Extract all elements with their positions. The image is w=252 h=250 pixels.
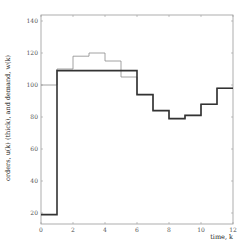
step-chart: 20406080100120140 024681012 time, k orde… — [0, 0, 252, 250]
series-lines — [41, 53, 233, 215]
x-tick-label: 4 — [103, 226, 107, 233]
orders-line — [41, 71, 233, 215]
plot-border — [41, 15, 233, 224]
y-tick-label: 20 — [30, 209, 38, 216]
x-tick-label: 8 — [167, 226, 171, 233]
plot-frame — [41, 15, 233, 224]
y-tick-label: 140 — [27, 17, 39, 24]
x-tick-label: 12 — [229, 226, 237, 233]
x-tick-label: 2 — [71, 226, 75, 233]
x-tick-label: 10 — [197, 226, 205, 233]
y-tick-label: 120 — [27, 49, 39, 56]
y-tick-label: 100 — [27, 81, 39, 88]
y-tick-label: 60 — [30, 145, 38, 152]
x-tick-label: 6 — [135, 226, 139, 233]
y-axis-label: orders, u(k) (thick), and demand, w(k) — [4, 55, 12, 181]
y-tick-label: 80 — [30, 113, 38, 120]
y-tick-label: 40 — [30, 177, 38, 184]
x-axis-ticks: 024681012 — [39, 15, 237, 233]
x-tick-label: 0 — [39, 226, 43, 233]
x-axis-label: time, k — [210, 233, 233, 241]
